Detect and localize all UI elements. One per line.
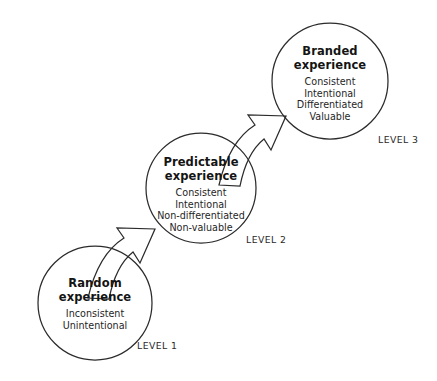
level-label-1: LEVEL 1	[137, 340, 178, 351]
circle-branded-experience	[272, 23, 388, 139]
circle-predictable-experience	[146, 133, 256, 243]
diagram-canvas: Random experience Inconsistent Unintenti…	[0, 0, 437, 381]
level-label-3: LEVEL 3	[378, 134, 419, 145]
arrow-predictable-to-branded-icon	[219, 115, 286, 186]
diagram-vector-layer	[0, 0, 437, 381]
arrow-random-to-predictable-icon	[88, 228, 155, 299]
circle-random-experience	[38, 246, 152, 360]
level-label-2: LEVEL 2	[246, 234, 287, 245]
